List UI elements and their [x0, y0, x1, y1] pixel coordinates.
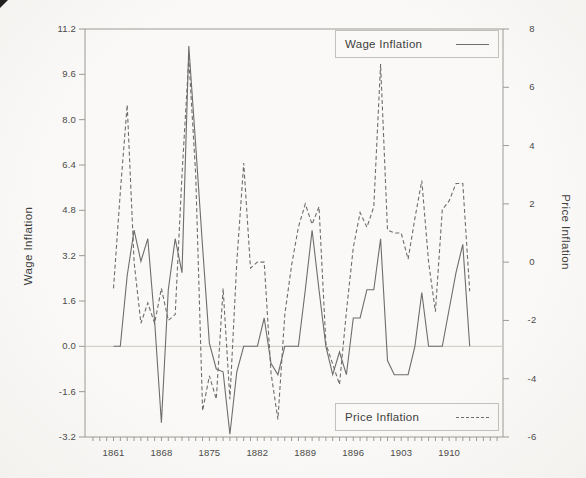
legend-price-line-sample — [456, 417, 489, 418]
x-tick-label: 1910 — [427, 447, 471, 458]
legend-price-label: Price Inflation — [345, 411, 419, 423]
left-tick-label: 11.2 — [42, 23, 76, 34]
left-tick-label: 6.4 — [42, 159, 76, 170]
left-tick-label: 3.2 — [42, 250, 76, 261]
left-tick-label: -3.2 — [42, 431, 76, 442]
x-tick-label: 1889 — [283, 447, 327, 458]
left-tick-label: -1.6 — [42, 386, 76, 397]
x-tick-label: 1903 — [379, 447, 423, 458]
chart-figure: Wage Inflation Price Inflation 11.29.68.… — [0, 0, 586, 478]
wage-inflation-line — [114, 46, 470, 434]
axis-ticks — [79, 29, 509, 441]
right-tick-label: 8 — [519, 23, 545, 34]
left-tick-label: 4.8 — [42, 204, 76, 215]
left-tick-label: 0.0 — [42, 340, 76, 351]
right-tick-label: 2 — [519, 198, 545, 209]
right-tick-label: 0 — [519, 256, 545, 267]
right-tick-label: -4 — [519, 373, 545, 384]
right-tick-label: -2 — [519, 314, 545, 325]
left-tick-label: 9.6 — [42, 68, 76, 79]
right-axis-title: Price Inflation — [560, 194, 572, 270]
x-tick-label: 1896 — [331, 447, 375, 458]
right-tick-label: 4 — [519, 140, 545, 151]
right-tick-label: 6 — [519, 81, 545, 92]
left-axis-title: Wage Inflation — [22, 207, 34, 286]
x-tick-label: 1875 — [187, 447, 231, 458]
x-tick-label: 1861 — [92, 447, 136, 458]
price-inflation-line — [114, 58, 470, 419]
left-tick-label: 1.6 — [42, 295, 76, 306]
legend-price-inflation: Price Inflation — [335, 403, 499, 431]
legend-wage-label: Wage Inflation — [345, 38, 422, 50]
right-tick-label: -6 — [519, 431, 545, 442]
x-tick-label: 1868 — [139, 447, 183, 458]
left-tick-label: 8.0 — [42, 114, 76, 125]
x-tick-label: 1882 — [235, 447, 279, 458]
legend-wage-inflation: Wage Inflation — [335, 30, 499, 58]
legend-wage-line-sample — [456, 44, 489, 45]
